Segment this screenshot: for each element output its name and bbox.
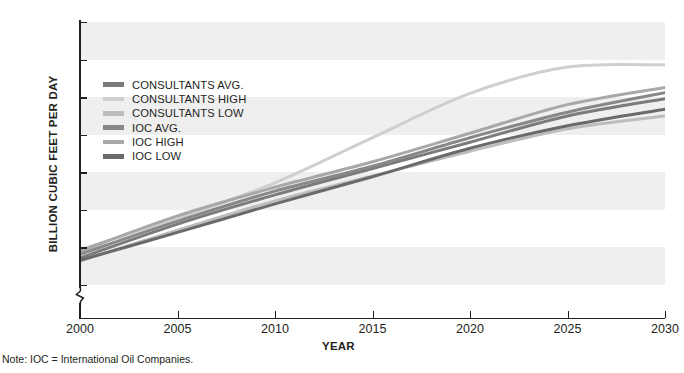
- y-axis-tick: [80, 97, 87, 98]
- legend-label: IOC HIGH: [132, 136, 184, 148]
- y-axis-tick: [80, 210, 87, 211]
- axis-break-icon: [70, 286, 90, 306]
- x-axis-tick-label: 2010: [240, 322, 310, 336]
- y-axis-title: BILLION CUBIC FEET PER DAY: [47, 19, 59, 309]
- x-axis-tick-label: 2005: [143, 322, 213, 336]
- legend-item[interactable]: IOC LOW: [103, 150, 246, 163]
- legend-label: IOC LOW: [132, 150, 181, 162]
- legend-swatch-icon: [103, 111, 124, 116]
- y-axis-tick: [80, 22, 87, 23]
- x-axis-tick: [373, 311, 374, 318]
- legend-swatch-icon: [103, 82, 124, 87]
- legend-item[interactable]: IOC AVG.: [103, 121, 246, 134]
- chart-note: Note: IOC = International Oil Companies.: [2, 353, 193, 365]
- x-axis-tick: [568, 311, 569, 318]
- x-axis-tick-label: 2015: [338, 322, 408, 336]
- legend-swatch-icon: [103, 125, 124, 130]
- x-axis-tick-label: 2025: [533, 322, 603, 336]
- y-axis-tick: [80, 172, 87, 173]
- legend-item[interactable]: CONSULTANTS AVG.: [103, 78, 246, 91]
- y-axis-tick: [80, 135, 87, 136]
- legend-label: IOC AVG.: [132, 122, 181, 134]
- legend-label: CONSULTANTS LOW: [132, 107, 244, 119]
- x-axis-tick: [178, 311, 179, 318]
- legend-item[interactable]: CONSULTANTS HIGH: [103, 92, 246, 105]
- legend-swatch-icon: [103, 97, 124, 102]
- legend-label: CONSULTANTS HIGH: [132, 93, 246, 105]
- legend-item[interactable]: CONSULTANTS LOW: [103, 107, 246, 120]
- x-axis-tick-label: 2030: [630, 322, 684, 336]
- y-axis-tick: [80, 60, 87, 61]
- x-axis-tick: [470, 311, 471, 318]
- plot-area: [80, 20, 665, 318]
- x-axis-tick: [80, 311, 81, 318]
- y-axis-tick: [80, 247, 87, 248]
- legend-label: CONSULTANTS AVG.: [132, 79, 244, 91]
- x-axis-tick: [665, 311, 666, 318]
- x-axis-tick-label: 2000: [45, 322, 115, 336]
- legend-swatch-icon: [103, 154, 124, 159]
- x-axis-title: YEAR: [0, 340, 677, 352]
- x-axis-tick-label: 2020: [435, 322, 505, 336]
- legend-item[interactable]: IOC HIGH: [103, 136, 246, 149]
- y-axis-tick: [80, 285, 87, 286]
- legend-swatch-icon: [103, 140, 124, 145]
- chart-legend: CONSULTANTS AVG.CONSULTANTS HIGHCONSULTA…: [103, 78, 246, 163]
- series-lines: [80, 20, 665, 318]
- x-axis-tick: [275, 311, 276, 318]
